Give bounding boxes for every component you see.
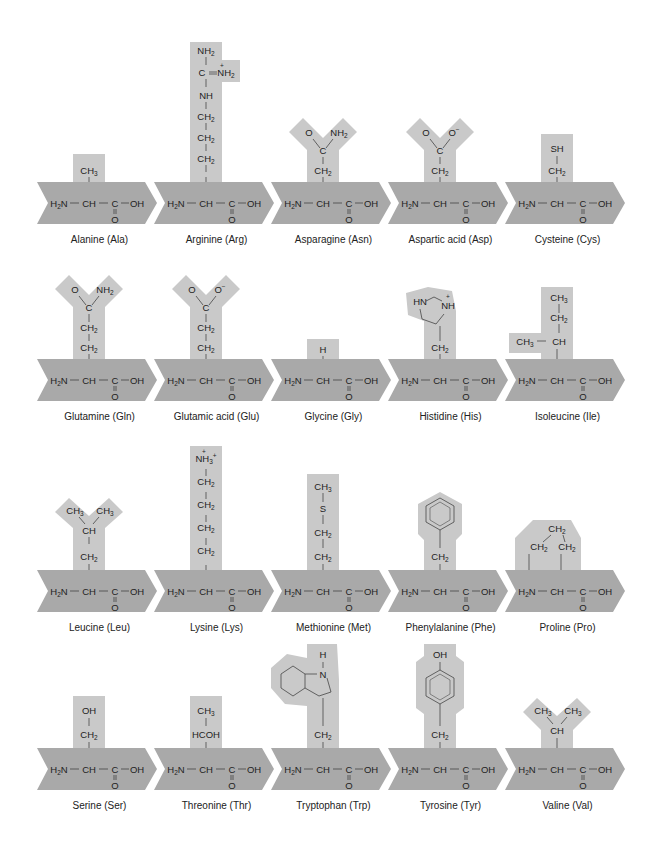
svg-text:OH: OH: [130, 198, 144, 209]
structure-diagram: OO−​CCH2​CH2​H2​NCHCOHO: [154, 359, 279, 404]
structure-diagram: ONH2​CCH2​H2​NCHCOHO: [271, 182, 396, 227]
structure-diagram: ONH2​CCH2​CH2​H2​NCHCOHO: [37, 359, 162, 404]
structure-diagram: CH2​CH2​CH2​H2​NCHCOHO: [505, 570, 630, 615]
svg-text:CH: CH: [433, 764, 447, 775]
amino-acid-label: Glutamic acid (Glu): [154, 411, 279, 422]
svg-text:CH: CH: [199, 764, 213, 775]
svg-text:O: O: [228, 780, 235, 791]
svg-text:NH: NH: [199, 90, 213, 101]
svg-text:CH: CH: [550, 764, 564, 775]
amino-acid-label: Histidine (His): [388, 411, 513, 422]
svg-text:CH: CH: [550, 375, 564, 386]
structure-diagram: CH3​HCOHH2​NCHCOHO: [154, 748, 279, 793]
amino-acid-label: Methionine (Met): [271, 622, 396, 633]
svg-text:CH: CH: [199, 198, 213, 209]
amino-acid-label: Leucine (Leu): [37, 622, 162, 633]
svg-text:CH: CH: [316, 375, 330, 386]
svg-text:C: C: [346, 375, 353, 386]
svg-text:OH: OH: [130, 764, 144, 775]
svg-text:OH: OH: [481, 375, 495, 386]
svg-text:O: O: [579, 214, 586, 225]
svg-text:CH: CH: [433, 375, 447, 386]
svg-text:OH: OH: [598, 764, 612, 775]
svg-text:O: O: [462, 780, 469, 791]
structure-diagram: CH3​H2​NCHCOHO: [37, 182, 162, 227]
svg-text:C: C: [112, 198, 119, 209]
structure-diagram: HH2​NCHCOHO: [271, 359, 396, 404]
svg-text:O: O: [111, 602, 118, 613]
svg-text:C: C: [112, 375, 119, 386]
structure-diagram: SHCH2​H2​NCHCOHO: [505, 182, 630, 227]
svg-text:O: O: [345, 391, 352, 402]
amino-acid-label: Glutamine (Gln): [37, 411, 162, 422]
svg-text:OH: OH: [130, 375, 144, 386]
amino-acid-label: Aspartic acid (Asp): [388, 234, 513, 245]
svg-text:H: H: [320, 649, 327, 660]
svg-text:O: O: [305, 127, 312, 138]
svg-text:CH: CH: [316, 586, 330, 597]
svg-text:OH: OH: [364, 586, 378, 597]
svg-text:OH: OH: [481, 586, 495, 597]
svg-text:O: O: [462, 214, 469, 225]
svg-text:C: C: [463, 375, 470, 386]
svg-text:S: S: [320, 503, 326, 514]
svg-text:O: O: [228, 391, 235, 402]
amino-acid-label: Asparagine (Asn): [271, 234, 396, 245]
svg-text:O: O: [228, 214, 235, 225]
structure-diagram: HNCH2​H2​NCHCOHO: [271, 748, 396, 793]
svg-text:C: C: [463, 586, 470, 597]
svg-text:O: O: [422, 127, 429, 138]
amino-acid-label: Cysteine (Cys): [505, 234, 630, 245]
svg-text:O: O: [111, 391, 118, 402]
svg-text:C: C: [580, 586, 587, 597]
svg-text:C: C: [229, 764, 236, 775]
svg-text:C: C: [346, 198, 353, 209]
structure-diagram: CH2​H2​NCHCOHO: [388, 570, 513, 615]
svg-text:O: O: [579, 780, 586, 791]
svg-text:CH: CH: [199, 375, 213, 386]
svg-text:O: O: [462, 391, 469, 402]
svg-text:C: C: [580, 764, 587, 775]
svg-text:C: C: [346, 764, 353, 775]
svg-text:C: C: [580, 198, 587, 209]
svg-text:O: O: [345, 214, 352, 225]
svg-text:C: C: [346, 586, 353, 597]
svg-text:OH: OH: [433, 649, 447, 660]
svg-text:OH: OH: [481, 764, 495, 775]
svg-text:SH: SH: [550, 143, 563, 154]
svg-text:+: +: [220, 62, 224, 69]
svg-text:CH: CH: [550, 725, 564, 736]
svg-text:CH: CH: [550, 586, 564, 597]
svg-text:N: N: [320, 669, 327, 680]
structure-diagram: HNNH+CH2​H2​NCHCOHO: [388, 359, 513, 404]
svg-text:CH: CH: [316, 198, 330, 209]
svg-text:OH: OH: [481, 198, 495, 209]
svg-text:O: O: [345, 602, 352, 613]
amino-acid-label: Glycine (Gly): [271, 411, 396, 422]
svg-text:O: O: [579, 602, 586, 613]
amino-acid-label: Lysine (Lys): [154, 622, 279, 633]
structure-diagram: OHCH2​H2​NCHCOHO: [37, 748, 162, 793]
structure-diagram: NH3​+​+CH2​CH2​CH2​CH2​H2​NCHCOHO: [154, 570, 279, 615]
structure-diagram: CH3​CH2​CH3​CHH2​NCHCOHO: [505, 359, 630, 404]
svg-text:CH: CH: [550, 198, 564, 209]
svg-text:NH: NH: [441, 300, 455, 311]
structure-diagram: CH3​SCH2​CH2​H2​NCHCOHO: [271, 570, 396, 615]
svg-text:CH: CH: [433, 198, 447, 209]
svg-text:C: C: [463, 764, 470, 775]
svg-text:C: C: [229, 375, 236, 386]
amino-acid-label: Tryptophan (Trp): [271, 800, 396, 811]
svg-text:CH: CH: [82, 764, 96, 775]
svg-text:OH: OH: [364, 375, 378, 386]
svg-text:OH: OH: [247, 375, 261, 386]
svg-text:O: O: [111, 780, 118, 791]
svg-text:O: O: [228, 602, 235, 613]
structure-diagram: CH3​CH3​CHCH2​H2​NCHCOHO: [37, 570, 162, 615]
svg-text:OH: OH: [82, 705, 96, 716]
svg-text:O: O: [111, 214, 118, 225]
amino-acid-label: Threonine (Thr): [154, 800, 279, 811]
svg-text:C: C: [320, 145, 327, 156]
svg-text:+: +: [446, 293, 450, 300]
svg-text:OH: OH: [247, 198, 261, 209]
svg-text:OH: OH: [598, 198, 612, 209]
